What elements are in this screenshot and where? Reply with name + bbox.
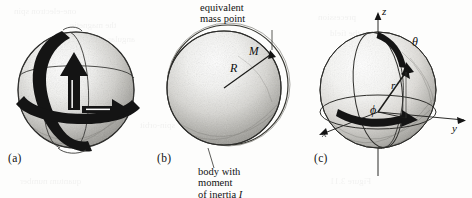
axis-label-x: x [322, 128, 327, 139]
symbol-moment-of-inertia: I [239, 189, 243, 198]
sphere-b [167, 31, 281, 149]
panel-c-drawing [302, 0, 472, 198]
axis-z-arrowhead-c [375, 12, 382, 20]
leader-line-body-moment-of-inertia [208, 148, 214, 168]
caption-body-line-3: of inertia I [198, 189, 242, 198]
panel-a-drawing [0, 0, 158, 198]
label-radius-R: R [230, 62, 237, 74]
sphere-c [320, 32, 436, 148]
panel-label-b: (b) [157, 152, 171, 164]
angle-label-phi: ϕ [370, 104, 376, 116]
caption-equivalent-mass-point: equivalent mass point [200, 2, 245, 25]
caption-body-moment-of-inertia: body with moment of inertia I [198, 166, 242, 198]
caption-equivalent-line-2: mass point [200, 13, 245, 24]
panel-a-rotating-sphere: (a) [0, 0, 158, 198]
caption-body-line-3-text: of inertia [198, 189, 239, 198]
panel-label-c: (c) [314, 152, 328, 164]
axis-label-y: y [452, 123, 457, 134]
band-top-cap-a [63, 27, 82, 31]
caption-equivalent-line-1: equivalent [200, 2, 245, 13]
mass-point-dot-b [269, 53, 273, 57]
radius-label-r: r [391, 80, 395, 91]
label-mass-M: M [249, 46, 259, 58]
figure-container: one-electron spinthe magneticangularof t… [0, 0, 472, 198]
caption-body-line-2: moment [198, 177, 242, 188]
axis-label-z: z [382, 6, 386, 17]
axis-y-arrowhead-c [457, 117, 466, 124]
panel-label-a: (a) [8, 152, 22, 164]
caption-body-line-1: body with [198, 166, 242, 177]
angle-label-theta: θ [412, 36, 418, 48]
panel-c-spherical-coordinates: z y x θ ϕ r (c) [302, 0, 472, 198]
